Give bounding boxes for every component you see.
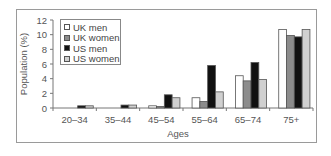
- x-tick-label: 65–74: [235, 114, 261, 125]
- legend-item-uk-women: UK women: [64, 33, 117, 44]
- legend-label: US women: [73, 53, 119, 64]
- legend-label: US men: [73, 43, 107, 54]
- y-axis-title: Population (%): [18, 33, 29, 95]
- bar: [259, 79, 267, 108]
- bar: [172, 98, 180, 108]
- bar: [149, 106, 157, 108]
- bar: [243, 81, 251, 108]
- bar: [192, 98, 200, 108]
- legend-label: UK men: [73, 22, 107, 33]
- x-tick-label: 35–44: [105, 114, 131, 125]
- legend-swatch-us-women: [64, 56, 70, 62]
- x-tick-label: 75+: [283, 114, 300, 125]
- bar: [78, 106, 86, 108]
- bar: [251, 63, 259, 108]
- legend-swatch-us-men: [64, 45, 70, 51]
- y-tick-label: 12: [36, 15, 47, 26]
- y-tick-label: 8: [42, 44, 47, 55]
- bar: [157, 107, 165, 108]
- bar: [200, 101, 208, 108]
- y-tick-label: 10: [36, 29, 47, 40]
- legend-swatch-uk-women: [64, 35, 70, 41]
- bar: [294, 37, 302, 108]
- y-tick-label: 0: [42, 103, 47, 114]
- bar: [208, 65, 216, 108]
- legend-item-us-women: US women: [64, 54, 117, 65]
- y-tick-label: 4: [42, 73, 47, 84]
- bar: [279, 30, 287, 108]
- legend: UK men UK women US men US women: [60, 19, 121, 65]
- bar-chart: 024681012Population (%)20–3435–4445–5455…: [0, 0, 331, 156]
- bar: [287, 35, 295, 108]
- bar: [215, 92, 223, 108]
- x-tick-label: 55–64: [191, 114, 217, 125]
- legend-label: UK women: [73, 32, 119, 43]
- y-tick-label: 2: [42, 88, 47, 99]
- x-tick-label: 45–54: [148, 114, 174, 125]
- x-tick-label: 20–34: [61, 114, 87, 125]
- bar: [85, 106, 93, 108]
- x-axis-title: Ages: [167, 128, 189, 139]
- y-tick-label: 6: [42, 59, 47, 70]
- bar: [129, 105, 137, 108]
- legend-item-uk-men: UK men: [64, 22, 117, 33]
- legend-swatch-uk-men: [64, 24, 70, 30]
- bar: [302, 30, 310, 108]
- legend-item-us-men: US men: [64, 43, 117, 54]
- bar: [164, 95, 172, 108]
- bar: [235, 76, 243, 108]
- bar: [121, 105, 129, 108]
